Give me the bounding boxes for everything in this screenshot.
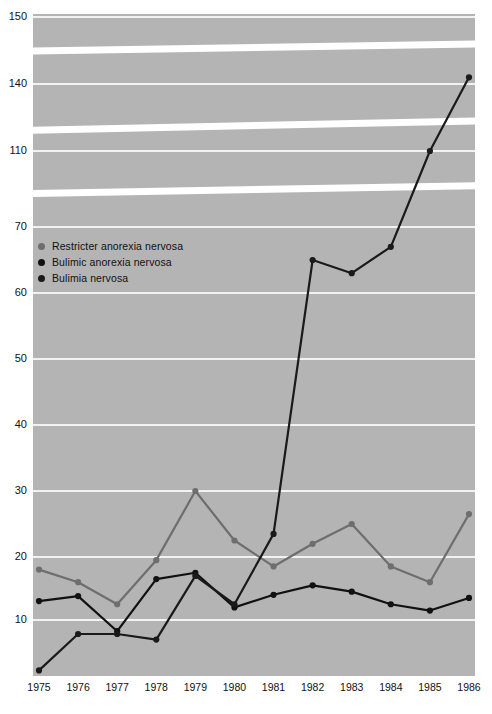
legend-label: Bulimic anorexia nervosa bbox=[52, 256, 172, 268]
legend-label: Restricter anorexia nervosa bbox=[52, 240, 183, 252]
x-tick-label: 1976 bbox=[66, 681, 89, 693]
y-tick-label: 40 bbox=[0, 418, 27, 430]
y-tick-label: 110 bbox=[0, 144, 27, 156]
x-tick-label: 1985 bbox=[418, 681, 441, 693]
x-tick-label: 1981 bbox=[262, 681, 285, 693]
y-tick-label: 70 bbox=[0, 220, 27, 232]
x-tick-label: 1980 bbox=[223, 681, 246, 693]
x-tick-label: 1978 bbox=[145, 681, 168, 693]
x-tick-label: 1984 bbox=[379, 681, 402, 693]
legend-item-3: Bulimia nervosa bbox=[38, 270, 183, 286]
x-tick-label: 1982 bbox=[301, 681, 324, 693]
y-tick-label: 20 bbox=[0, 550, 27, 562]
x-tick-label: 1983 bbox=[340, 681, 363, 693]
legend-label: Bulimia nervosa bbox=[52, 272, 128, 284]
x-tick-label: 1977 bbox=[105, 681, 128, 693]
x-tick-label: 1979 bbox=[184, 681, 207, 693]
legend-marker-icon bbox=[38, 243, 45, 250]
legend-item-1: Restricter anorexia nervosa bbox=[38, 238, 183, 254]
y-tick-label: 30 bbox=[0, 484, 27, 496]
legend-marker-icon bbox=[38, 275, 45, 282]
legend-marker-icon bbox=[38, 259, 45, 266]
x-axis-ticks: 1975197619771978197919801981198219831984… bbox=[0, 681, 492, 703]
y-tick-label: 140 bbox=[0, 77, 27, 89]
legend: Restricter anorexia nervosaBulimic anore… bbox=[38, 238, 183, 286]
chart-figure: 10203040506070110140150 1975197619771978… bbox=[0, 0, 492, 714]
y-axis-ticks: 10203040506070110140150 bbox=[0, 0, 492, 714]
y-tick-label: 50 bbox=[0, 352, 27, 364]
y-tick-label: 150 bbox=[0, 10, 27, 22]
y-tick-label: 60 bbox=[0, 286, 27, 298]
y-tick-label: 10 bbox=[0, 613, 27, 625]
x-tick-label: 1975 bbox=[27, 681, 50, 693]
legend-item-2: Bulimic anorexia nervosa bbox=[38, 254, 183, 270]
x-tick-label: 1986 bbox=[457, 681, 480, 693]
